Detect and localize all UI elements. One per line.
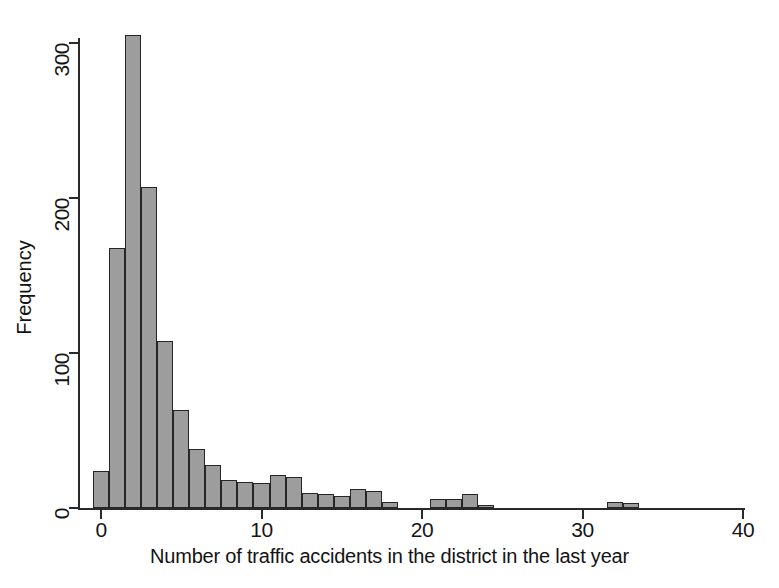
histogram-bar [318,494,334,508]
histogram-bar [607,502,623,508]
x-tick-label-10: 10 [250,518,272,542]
histogram-bar [334,496,350,508]
histogram-bar [286,477,302,508]
y-tick-label-300: 300 [50,43,74,103]
histogram-bar [125,35,141,508]
x-axis-line [79,508,745,510]
plot-area: 0100200300 010203040 Frequency Number of… [0,0,779,588]
histogram-bar [350,489,366,508]
x-tick-label-40: 40 [732,518,754,542]
histogram-bar [205,465,221,508]
x-tick-label-20: 20 [411,518,433,542]
histogram-bar [109,248,125,508]
histogram-bar [270,475,286,508]
histogram-bar [623,503,639,508]
y-tick-label-100: 100 [50,353,74,413]
histogram-bar [446,499,462,508]
histogram-bar [253,483,269,508]
y-axis-title: Frequency [13,168,36,408]
histogram-bar [237,482,253,508]
histogram-bar [462,494,478,508]
histogram-bar [366,491,382,508]
x-tick-label-0: 0 [95,518,106,542]
histogram-bar [302,493,318,509]
histogram-bar [189,449,205,508]
histogram-bar [173,410,189,508]
histogram-bar [382,502,398,508]
histogram-bar [93,471,109,508]
y-axis-line [78,38,80,510]
histogram-bar [157,341,173,508]
x-axis-title: Number of traffic accidents in the distr… [0,545,779,568]
histogram-bar [430,499,446,508]
x-tick-label-30: 30 [571,518,593,542]
histogram-chart: 0100200300 010203040 Frequency Number of… [0,0,779,588]
histogram-bar [221,480,237,508]
histogram-bar [478,505,494,508]
histogram-bar [141,187,157,508]
y-tick-label-200: 200 [50,198,74,258]
